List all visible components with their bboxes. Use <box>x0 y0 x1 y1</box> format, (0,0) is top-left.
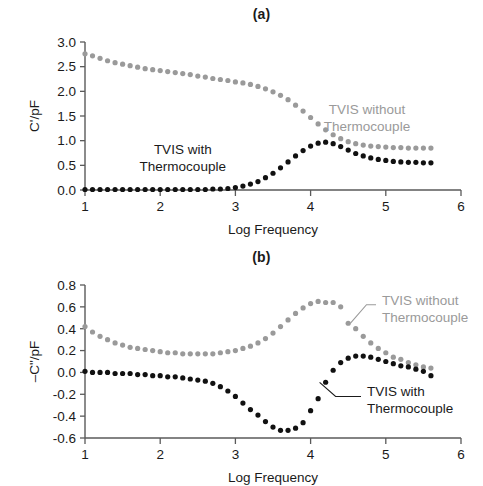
data-point <box>368 155 373 160</box>
data-point <box>406 160 411 165</box>
data-point <box>376 157 381 162</box>
panel-a-plot: 0.00.51.01.52.02.53.0123456Log Frequency… <box>0 0 483 243</box>
x-tick-label: 3 <box>232 447 240 462</box>
data-point <box>270 171 275 176</box>
data-point <box>120 343 125 348</box>
data-point <box>248 82 253 87</box>
data-point <box>293 153 298 158</box>
y-tick-label: 1.5 <box>57 109 76 124</box>
data-point <box>158 349 163 354</box>
y-tick-label: 0.2 <box>57 343 76 358</box>
data-point <box>293 426 298 431</box>
data-point <box>210 381 215 386</box>
data-point <box>391 159 396 164</box>
data-point <box>82 187 87 192</box>
data-point <box>421 145 426 150</box>
data-point <box>293 103 298 108</box>
data-point <box>143 372 148 377</box>
data-point <box>308 143 313 148</box>
data-point <box>263 336 268 341</box>
y-tick-label: -0.6 <box>53 431 76 446</box>
data-point <box>391 145 396 150</box>
data-point <box>406 364 411 369</box>
y-tick-label: 0.4 <box>57 322 76 337</box>
data-point <box>150 187 155 192</box>
data-point <box>270 424 275 429</box>
y-tick-label: 0.0 <box>57 183 76 198</box>
data-point <box>105 370 110 375</box>
data-point <box>105 58 110 63</box>
data-point <box>128 63 133 68</box>
data-point <box>376 144 381 149</box>
data-point <box>225 349 230 354</box>
data-point <box>361 153 366 158</box>
data-series <box>82 140 433 193</box>
data-point <box>105 187 110 192</box>
data-point <box>285 317 290 322</box>
data-point <box>413 160 418 165</box>
data-point <box>413 145 418 150</box>
x-tick-label: 1 <box>81 199 89 214</box>
data-point <box>195 351 200 356</box>
data-point <box>300 420 305 425</box>
data-point <box>112 187 117 192</box>
data-point <box>195 377 200 382</box>
series-annotation-label: TVIS without <box>329 102 406 117</box>
data-point <box>361 143 366 148</box>
y-tick-label: -0.2 <box>53 387 76 402</box>
data-point <box>180 351 185 356</box>
data-point <box>165 187 170 192</box>
data-point <box>361 334 366 339</box>
data-point <box>285 159 290 164</box>
series-annotation-label: Thermocouple <box>367 401 453 416</box>
data-point <box>128 345 133 350</box>
data-point <box>368 340 373 345</box>
data-point <box>135 372 140 377</box>
y-tick-label: -0.4 <box>53 409 77 424</box>
data-point <box>368 143 373 148</box>
x-tick-label: 6 <box>457 447 465 462</box>
data-point <box>120 187 125 192</box>
y-axis-title: C'/pF <box>27 100 42 132</box>
data-point <box>233 348 238 353</box>
data-point <box>150 348 155 353</box>
data-point <box>173 374 178 379</box>
data-point <box>338 136 343 141</box>
data-point <box>82 324 87 329</box>
data-point <box>158 373 163 378</box>
data-point <box>376 357 381 362</box>
data-point <box>255 340 260 345</box>
data-point <box>240 346 245 351</box>
data-point <box>368 355 373 360</box>
data-point <box>353 141 358 146</box>
data-point <box>90 187 95 192</box>
series-annotation-label: TVIS without <box>382 293 459 308</box>
data-point <box>135 346 140 351</box>
data-point <box>225 78 230 83</box>
data-point <box>300 148 305 153</box>
data-point <box>97 56 102 61</box>
data-point <box>270 330 275 335</box>
data-point <box>323 380 328 385</box>
data-point <box>112 60 117 65</box>
data-point <box>90 370 95 375</box>
data-point <box>203 187 208 192</box>
data-point <box>128 371 133 376</box>
data-point <box>263 419 268 424</box>
y-axis-title: –C"/pF <box>27 341 42 383</box>
y-tick-label: 0.0 <box>57 365 76 380</box>
panel-b-plot: -0.6-0.4-0.20.00.20.40.60.8123456Log Fre… <box>0 243 483 486</box>
data-point <box>143 347 148 352</box>
data-point <box>97 370 102 375</box>
data-point <box>391 355 396 360</box>
data-point <box>218 384 223 389</box>
data-point <box>323 140 328 145</box>
data-point <box>255 179 260 184</box>
data-point <box>263 86 268 91</box>
data-point <box>180 375 185 380</box>
data-point <box>406 145 411 150</box>
data-point <box>203 74 208 79</box>
data-point <box>233 79 238 84</box>
data-point <box>240 400 245 405</box>
data-point <box>278 324 283 329</box>
